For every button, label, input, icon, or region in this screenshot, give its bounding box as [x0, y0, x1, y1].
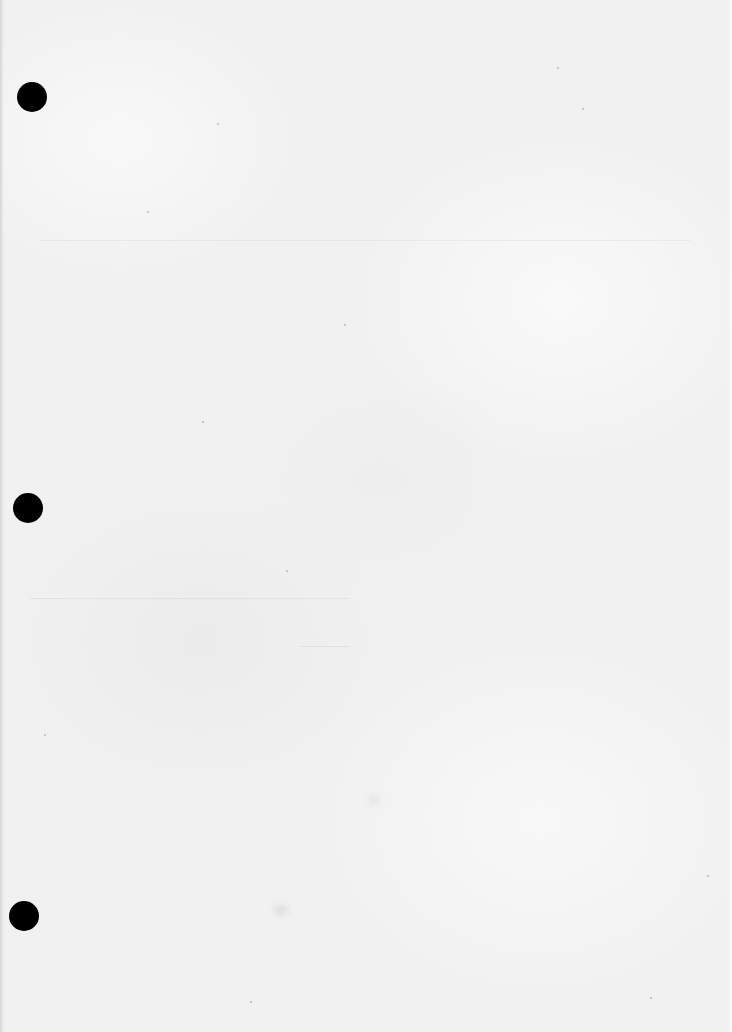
paper-speck	[650, 997, 652, 999]
paper-speck	[286, 570, 288, 572]
page-left-edge-shadow	[0, 0, 4, 1032]
scan-artifact-line	[300, 646, 350, 647]
paper-speck	[147, 211, 149, 213]
scan-artifact-line	[40, 240, 690, 241]
scan-artifact-line	[30, 598, 350, 599]
paper-speck	[202, 421, 204, 423]
paper-smudge	[274, 905, 288, 915]
paper-speck	[217, 123, 219, 125]
paper-smudge	[368, 795, 380, 805]
punch-hole-top	[17, 82, 47, 112]
paper-speck	[44, 734, 46, 736]
page-right-edge	[728, 0, 732, 1032]
punch-hole-bottom	[9, 901, 39, 931]
paper-speck	[707, 875, 709, 877]
paper-speck	[344, 324, 346, 326]
blank-paper-page	[0, 0, 732, 1032]
paper-speck	[557, 67, 559, 69]
paper-speck	[582, 108, 584, 110]
paper-speck	[250, 1001, 252, 1003]
punch-hole-middle	[13, 493, 43, 523]
